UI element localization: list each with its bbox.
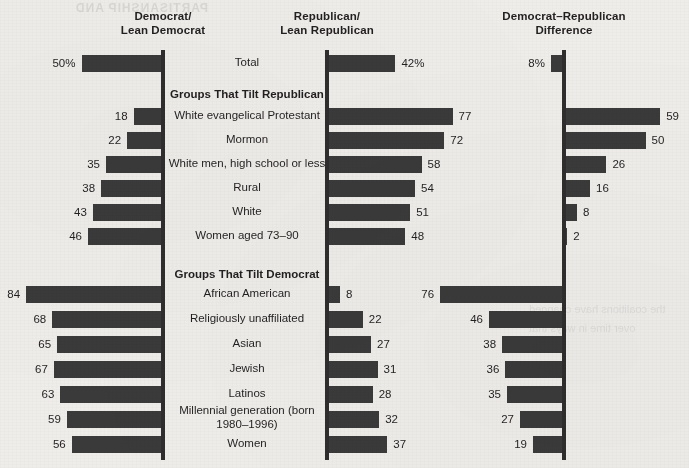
column-header-diff: Democrat–Republican Difference [474, 10, 654, 37]
bar-diff [502, 336, 564, 353]
value-rep: 42% [401, 55, 424, 72]
bar-rep [327, 156, 422, 173]
bar-dem [106, 156, 163, 173]
value-dem: 56 [8, 436, 66, 453]
row-label: Women aged 73–90 [168, 229, 326, 243]
value-rep: 48 [411, 228, 424, 245]
section-heading: Groups That Tilt Republican [168, 88, 326, 102]
value-diff: 26 [612, 156, 625, 173]
bar-diff [505, 361, 564, 378]
value-dem: 67 [0, 361, 48, 378]
value-rep: 51 [416, 204, 429, 221]
value-diff: 35 [443, 386, 501, 403]
row-label: White evangelical Protestant [168, 109, 326, 123]
bar-dem [57, 336, 163, 353]
bar-rep [327, 132, 444, 149]
bar-diff [520, 411, 564, 428]
bar-dem [88, 228, 163, 245]
bar-diff [489, 311, 564, 328]
bar-diff [564, 108, 660, 125]
row-label: Religiously unaffiliated [168, 312, 326, 326]
bar-dem [101, 180, 163, 197]
bar-diff [440, 286, 564, 303]
bar-dem [82, 55, 164, 72]
bar-rep [327, 411, 379, 428]
value-diff: 8% [487, 55, 545, 72]
value-dem: 63 [0, 386, 54, 403]
row-label: Jewish [168, 362, 326, 376]
column-header-rep: Republican/ Lean Republican [237, 10, 417, 37]
bar-rep [327, 180, 415, 197]
bar-dem [72, 436, 163, 453]
value-rep: 54 [421, 180, 434, 197]
value-diff: 8 [583, 204, 589, 221]
value-dem: 46 [24, 228, 82, 245]
bar-diff [507, 386, 564, 403]
bar-rep [327, 336, 371, 353]
bar-dem [93, 204, 163, 221]
value-dem: 50% [18, 55, 76, 72]
bar-rep [327, 228, 405, 245]
value-diff: 50 [652, 132, 665, 149]
bar-dem [127, 132, 163, 149]
value-rep: 8 [346, 286, 352, 303]
value-dem: 84 [0, 286, 20, 303]
value-diff: 2 [573, 228, 579, 245]
value-rep: 32 [385, 411, 398, 428]
row-label: Latinos [168, 387, 326, 401]
value-rep: 27 [377, 336, 390, 353]
row-label: White [168, 205, 326, 219]
bar-diff [533, 436, 564, 453]
axis-line-rep [325, 50, 329, 460]
value-dem: 68 [0, 311, 46, 328]
bar-rep [327, 311, 363, 328]
row-label: Total [168, 56, 326, 70]
section-heading: Groups That Tilt Democrat [168, 268, 326, 282]
value-diff: 46 [425, 311, 483, 328]
bar-rep [327, 436, 387, 453]
value-rep: 72 [450, 132, 463, 149]
bar-rep [327, 55, 395, 72]
value-rep: 31 [384, 361, 397, 378]
bar-dem [134, 108, 163, 125]
value-diff: 36 [441, 361, 499, 378]
value-rep: 37 [393, 436, 406, 453]
row-label: Asian [168, 337, 326, 351]
value-dem: 18 [70, 108, 128, 125]
bar-dem [52, 311, 163, 328]
value-rep: 22 [369, 311, 382, 328]
bar-diff [564, 180, 590, 197]
value-diff: 16 [596, 180, 609, 197]
bar-rep [327, 386, 373, 403]
bar-dem [26, 286, 163, 303]
value-dem: 38 [37, 180, 95, 197]
value-dem: 43 [29, 204, 87, 221]
value-rep: 77 [459, 108, 472, 125]
value-dem: 65 [0, 336, 51, 353]
row-label: African American [168, 287, 326, 301]
value-dem: 59 [3, 411, 61, 428]
bar-dem [67, 411, 163, 428]
value-dem: 22 [63, 132, 121, 149]
value-diff: 76 [376, 286, 434, 303]
value-rep: 28 [379, 386, 392, 403]
axis-line-diff [562, 50, 566, 460]
row-label: White men, high school or less [168, 157, 326, 171]
bar-diff [564, 132, 646, 149]
bar-rep [327, 204, 410, 221]
bar-diff [564, 156, 606, 173]
row-label: Rural [168, 181, 326, 195]
axis-line-dem [161, 50, 165, 460]
value-diff: 27 [456, 411, 514, 428]
value-diff: 19 [469, 436, 527, 453]
value-dem: 35 [42, 156, 100, 173]
value-rep: 58 [428, 156, 441, 173]
value-diff: 38 [438, 336, 496, 353]
partisanship-bar-chart: Democrat/ Lean DemocratRepublican/ Lean … [0, 0, 689, 468]
value-diff: 59 [666, 108, 679, 125]
bar-rep [327, 361, 378, 378]
row-label: Millennial generation (born 1980–1996) [168, 404, 326, 431]
column-header-dem: Democrat/ Lean Democrat [73, 10, 253, 37]
bar-dem [54, 361, 163, 378]
bar-dem [60, 386, 163, 403]
